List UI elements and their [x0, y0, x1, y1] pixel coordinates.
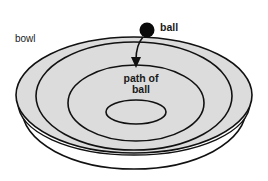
- ball-label: ball: [160, 21, 178, 33]
- bowl-label: bowl: [15, 33, 36, 44]
- path-of-ball-label: path of ball: [115, 73, 167, 95]
- ball-icon: [140, 23, 155, 38]
- bowl-rim: [16, 37, 252, 153]
- path-label-line2: ball: [115, 84, 167, 95]
